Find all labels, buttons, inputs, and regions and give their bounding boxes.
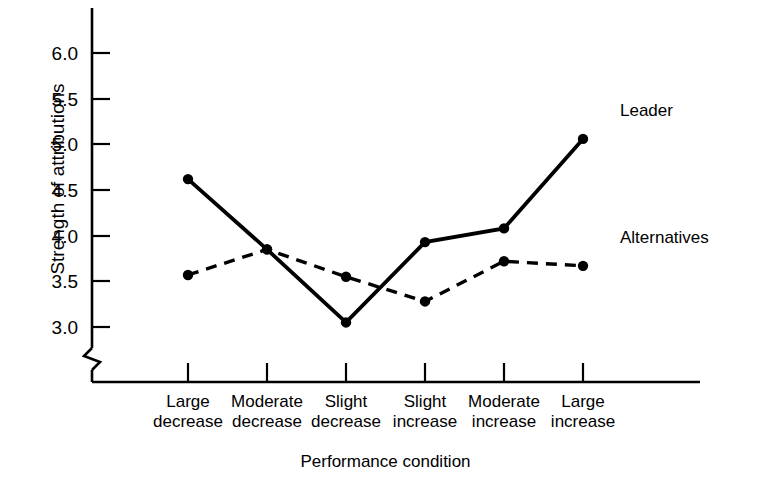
y-axis-title: Strength of attributions <box>47 59 69 299</box>
series-label-alternatives: Alternatives <box>620 228 709 248</box>
series-line-leader <box>188 139 583 323</box>
y-axis-break-icon <box>84 348 100 370</box>
data-point <box>183 174 193 184</box>
x-tick-label-line1: Large <box>536 392 630 412</box>
y-tick-marks <box>92 53 110 327</box>
x-tick-label: Large increase <box>536 392 630 432</box>
data-point <box>578 261 588 271</box>
data-point <box>499 223 509 233</box>
y-tick-label: 3.0 <box>24 318 78 337</box>
line-chart-figure: 6.0 5.5 5.0 4.5 4.0 3.5 3.0 Strength of … <box>0 0 758 488</box>
data-point <box>578 134 588 144</box>
data-point <box>262 244 272 254</box>
data-point <box>341 317 351 327</box>
data-point <box>183 270 193 280</box>
x-axis-title: Performance condition <box>188 452 583 472</box>
data-point <box>420 296 430 306</box>
data-series-layer <box>183 134 588 328</box>
x-tick-label-line2: increase <box>536 412 630 432</box>
series-line-alternatives <box>188 249 583 301</box>
data-point <box>420 237 430 247</box>
x-tick-marks <box>188 363 583 382</box>
data-point <box>341 272 351 282</box>
series-label-leader: Leader <box>620 101 673 121</box>
data-point <box>499 256 509 266</box>
